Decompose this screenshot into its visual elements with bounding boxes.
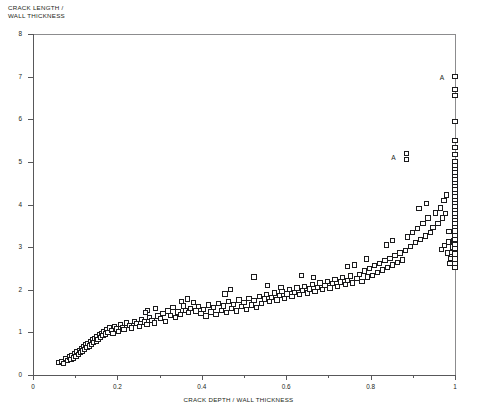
x-tick (202, 375, 203, 380)
y-tick-label: 8 (2, 30, 22, 37)
y-tick-label: 1 (2, 328, 22, 335)
y-axis-label-line2: WALL THICKNESS (8, 12, 65, 19)
y-tick-label: 4 (2, 201, 22, 208)
point-annotation: A (391, 153, 395, 160)
x-tick (33, 375, 34, 380)
x-tick-minor (75, 375, 76, 378)
x-tick (371, 375, 372, 380)
x-tick (286, 375, 287, 380)
x-axis-label: CRACK DEPTH / WALL THICKNESS (0, 396, 477, 403)
x-tick (455, 375, 456, 380)
x-tick-label: 0.8 (356, 383, 386, 390)
x-tick-minor (328, 375, 329, 378)
y-tick-label: 0 (2, 371, 22, 378)
y-axis-label-line1: CRACK LENGTH / (8, 4, 63, 11)
y-tick-label: 3 (2, 243, 22, 250)
y-tick-label: 6 (2, 115, 22, 122)
point-annotation: A (440, 73, 444, 80)
annotation-layer: AA (33, 34, 455, 375)
y-tick-label: 2 (2, 286, 22, 293)
x-tick-label: 0 (18, 383, 48, 390)
x-tick-label: 1 (440, 383, 470, 390)
y-axis-label: CRACK LENGTH / WALL THICKNESS (8, 4, 65, 21)
x-tick-minor (160, 375, 161, 378)
x-tick-minor (413, 375, 414, 378)
x-tick (117, 375, 118, 380)
x-tick-label: 0.2 (102, 383, 132, 390)
y-tick-label: 5 (2, 158, 22, 165)
x-tick-label: 0.6 (271, 383, 301, 390)
y-tick-label: 7 (2, 73, 22, 80)
x-tick-minor (244, 375, 245, 378)
x-tick-label: 0.4 (187, 383, 217, 390)
